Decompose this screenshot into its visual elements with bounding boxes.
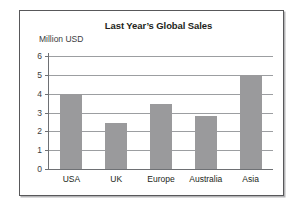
- bar-australia: [195, 116, 217, 169]
- chart-figure-frame: Last Year’s Global Sales Million USD 012…: [19, 10, 284, 196]
- bar-europe: [150, 104, 172, 169]
- y-tick-mark-4: [45, 94, 49, 95]
- chart-page: Last Year’s Global Sales Million USD 012…: [0, 0, 303, 216]
- y-tick-label-0: 0: [37, 164, 42, 174]
- y-tick-mark-0: [45, 169, 49, 170]
- x-label-usa: USA: [63, 174, 80, 184]
- x-label-asia: Asia: [242, 174, 259, 184]
- y-tick-label-2: 2: [37, 126, 42, 136]
- y-axis-title: Million USD: [39, 34, 83, 44]
- y-tick-mark-5: [45, 75, 49, 76]
- y-tick-mark-1: [45, 150, 49, 151]
- gridline-6: [49, 56, 273, 57]
- plot-area: 0123456 USAUKEuropeAustraliaAsia: [49, 56, 273, 169]
- gridline-0: [49, 169, 273, 170]
- chart-title: Last Year’s Global Sales: [20, 20, 283, 31]
- y-axis-line: [48, 53, 49, 170]
- bar-asia: [240, 75, 262, 169]
- bar-uk: [105, 123, 127, 169]
- bar-usa: [60, 94, 82, 169]
- y-tick-mark-3: [45, 113, 49, 114]
- y-tick-mark-6: [45, 56, 49, 57]
- y-tick-label-4: 4: [37, 89, 42, 99]
- y-tick-label-6: 6: [37, 51, 42, 61]
- x-label-europe: Europe: [147, 174, 174, 184]
- x-label-australia: Australia: [189, 174, 222, 184]
- y-tick-mark-2: [45, 131, 49, 132]
- y-tick-label-5: 5: [37, 70, 42, 80]
- y-tick-label-1: 1: [37, 145, 42, 155]
- x-label-uk: UK: [110, 174, 122, 184]
- y-tick-label-3: 3: [37, 108, 42, 118]
